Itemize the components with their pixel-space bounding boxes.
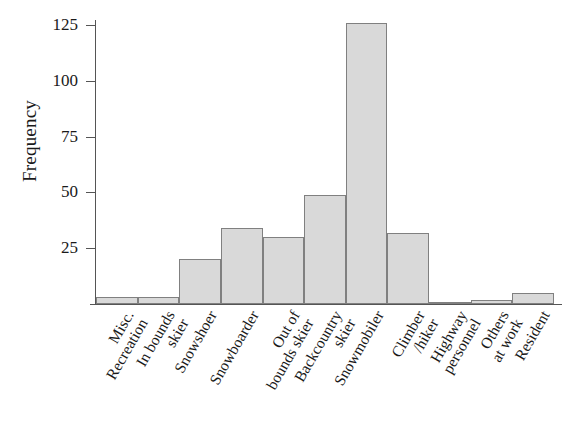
- x-axis-labels: Misc.RecreationIn boundsskierSnowshoerSn…: [0, 308, 576, 429]
- y-tick-25: [86, 248, 96, 249]
- y-tick-label-50: 50: [34, 183, 78, 200]
- y-tick-100: [86, 81, 96, 82]
- bar: [138, 297, 180, 304]
- y-tick-50: [86, 192, 96, 193]
- bar: [429, 302, 471, 305]
- bar: [304, 195, 346, 304]
- plot-area: [96, 20, 554, 304]
- bar: [387, 233, 429, 304]
- y-tick-75: [86, 137, 96, 138]
- bar: [471, 300, 513, 304]
- frequency-histogram: Frequency 125100755025 Misc.RecreationIn…: [0, 0, 576, 429]
- bar: [263, 237, 305, 304]
- y-tick-label-75: 75: [34, 128, 78, 145]
- bar: [346, 23, 388, 304]
- bar: [221, 228, 263, 304]
- bar: [179, 259, 221, 304]
- y-tick-125: [86, 25, 96, 26]
- y-tick-label-25: 25: [34, 239, 78, 256]
- bar: [512, 293, 554, 304]
- y-tick-label-125: 125: [34, 16, 78, 33]
- x-axis-line: [90, 304, 562, 305]
- bar: [96, 297, 138, 304]
- y-tick-label-100: 100: [34, 72, 78, 89]
